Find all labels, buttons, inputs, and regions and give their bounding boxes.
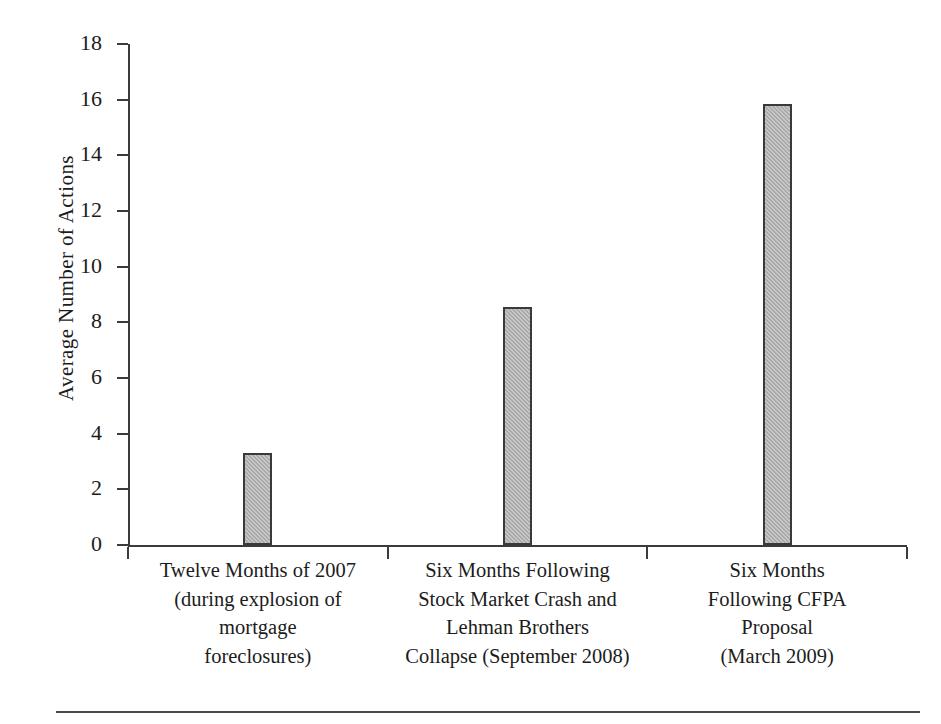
y-axis-tick-mark: [117, 488, 128, 490]
x-axis-category-label: Six Months FollowingStock Market Crash a…: [376, 556, 660, 670]
y-axis-tick-label: 18: [42, 32, 102, 54]
x-axis-tick-mark: [127, 547, 129, 559]
category-label-line: Proposal: [635, 613, 919, 642]
x-axis-category-labels: Twelve Months of 2007(during explosion o…: [128, 556, 907, 676]
y-axis-tick-label: 12: [42, 199, 102, 221]
y-axis-tick-mark: [117, 210, 128, 212]
y-axis-tick-mark: [117, 377, 128, 379]
y-axis-tick-mark: [117, 433, 128, 435]
bar: [763, 104, 792, 545]
x-axis-tick-mark: [646, 547, 648, 559]
y-axis-tick-label: 2: [42, 477, 102, 499]
category-label-line: (during explosion of: [116, 585, 400, 614]
y-axis-tick-label: 10: [42, 255, 102, 277]
y-axis-tick-mark: [117, 321, 128, 323]
category-label-line: foreclosures): [116, 642, 400, 671]
y-axis-tick-label: 0: [42, 533, 102, 555]
plot-area: [128, 44, 906, 545]
y-axis-tick-mark: [117, 99, 128, 101]
category-label-line: Stock Market Crash and: [376, 585, 660, 614]
x-axis-category-label: Twelve Months of 2007(during explosion o…: [116, 556, 400, 670]
x-axis-tick-mark: [906, 547, 908, 559]
y-axis-tick-mark: [117, 43, 128, 45]
x-axis-line: [128, 545, 907, 547]
category-label-line: Following CFPA: [635, 585, 919, 614]
category-label-line: Lehman Brothers: [376, 613, 660, 642]
y-axis-tick-label: 8: [42, 310, 102, 332]
y-axis-tick-label: 6: [42, 366, 102, 388]
y-axis-tick-mark: [117, 266, 128, 268]
category-label-line: Six Months Following: [376, 556, 660, 585]
x-axis-category-label: Six MonthsFollowing CFPAProposal(March 2…: [635, 556, 919, 670]
bar: [503, 307, 532, 545]
category-label-line: Six Months: [635, 556, 919, 585]
category-label-line: Collapse (September 2008): [376, 642, 660, 671]
y-axis-tick-mark: [117, 544, 128, 546]
y-axis-tick-label: 16: [42, 88, 102, 110]
bar: [243, 453, 272, 545]
bar-chart-figure: Average Number of Actions 18161412108642…: [0, 0, 941, 724]
y-axis-tick-mark: [117, 154, 128, 156]
category-label-line: mortgage: [116, 613, 400, 642]
category-label-line: (March 2009): [635, 642, 919, 671]
category-label-line: Twelve Months of 2007: [116, 556, 400, 585]
bottom-divider-rule: [56, 711, 920, 713]
x-axis-tick-mark: [387, 547, 389, 559]
y-axis-tick-label: 14: [42, 143, 102, 165]
y-axis-tick-label: 4: [42, 422, 102, 444]
